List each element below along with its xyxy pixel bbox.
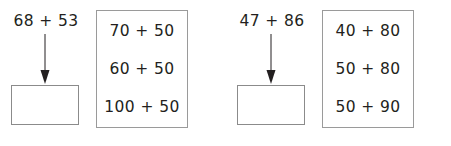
worksheet: 68 + 53 70 + 50 60 + 50 100 + 50 47 + 86…: [0, 0, 451, 146]
down-arrow-icon: [34, 34, 56, 84]
problem-2-expression: 47 + 86: [236, 11, 308, 31]
problem-1-answer-box[interactable]: [11, 85, 79, 125]
problem-1: 68 + 53 70 + 50 60 + 50 100 + 50: [0, 0, 226, 146]
problem-2-option-1[interactable]: 40 + 80: [335, 12, 400, 50]
problem-1-expression: 68 + 53: [10, 11, 82, 31]
problem-1-option-1[interactable]: 70 + 50: [109, 12, 174, 50]
problem-1-option-3[interactable]: 100 + 50: [104, 88, 179, 126]
problem-1-option-2[interactable]: 60 + 50: [109, 50, 174, 88]
problem-1-options-box: 70 + 50 60 + 50 100 + 50: [96, 10, 188, 128]
problem-2-answer-box[interactable]: [237, 85, 305, 125]
problem-2-option-2[interactable]: 50 + 80: [335, 50, 400, 88]
down-arrow-icon: [260, 34, 282, 84]
problem-2-options-box: 40 + 80 50 + 80 50 + 90: [322, 10, 414, 128]
problem-2-option-3[interactable]: 50 + 90: [335, 88, 400, 126]
problem-2: 47 + 86 40 + 80 50 + 80 50 + 90: [226, 0, 451, 146]
